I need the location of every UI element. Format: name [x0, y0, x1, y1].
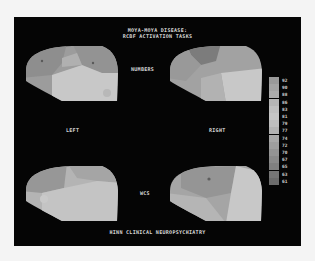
legend-value: 70 [282, 149, 287, 156]
legend-value: 92 [282, 77, 287, 84]
brain-map-wcs-left [22, 163, 122, 223]
figure-footer: HINN CLINICAL NEUROPSYCHIATRY [14, 229, 301, 235]
hemisphere-label-left: LEFT [66, 127, 79, 133]
legend-swatch [269, 178, 279, 185]
legend-swatch [269, 84, 279, 91]
brain-map-numbers-left [22, 43, 122, 103]
legend-swatch [269, 91, 279, 98]
legend-value: 72 [282, 142, 287, 149]
hemisphere-label-right: RIGHT [209, 127, 226, 133]
legend-swatch [269, 113, 279, 120]
legend-swatch [269, 149, 279, 156]
legend-swatch [269, 163, 279, 170]
legend-swatch [269, 171, 279, 178]
legend-value: 74 [282, 135, 287, 142]
legend-swatch [269, 77, 279, 84]
legend-value: 90 [282, 84, 287, 91]
legend-swatch [269, 156, 279, 163]
task-label-wcs: WCS [140, 190, 150, 196]
legend-swatch [269, 106, 279, 113]
legend-value: 67 [282, 156, 287, 163]
legend-value: 65 [282, 163, 287, 170]
legend-value: 77 [282, 127, 287, 134]
legend-value: 86 [282, 99, 287, 106]
legend-swatch [269, 142, 279, 149]
legend-swatch [269, 135, 279, 142]
brain-map-wcs-right [166, 163, 266, 223]
legend-value: 88 [282, 91, 287, 98]
brain-map-numbers-right [166, 43, 266, 103]
legend-swatch [269, 127, 279, 134]
legend-value: 81 [282, 113, 287, 120]
task-label-numbers: NUMBERS [131, 66, 154, 72]
legend-value: 79 [282, 120, 287, 127]
figure-panel: MOYA-MOYA DISEASE: RCBF ACTIVATION TASKS… [14, 17, 301, 246]
legend-swatch [269, 99, 279, 106]
legend-value: 61 [282, 178, 287, 185]
figure-title-line2: RCBF ACTIVATION TASKS [14, 33, 301, 39]
legend-value: 63 [282, 171, 287, 178]
legend-swatch [269, 120, 279, 127]
legend-value: 83 [282, 106, 287, 113]
